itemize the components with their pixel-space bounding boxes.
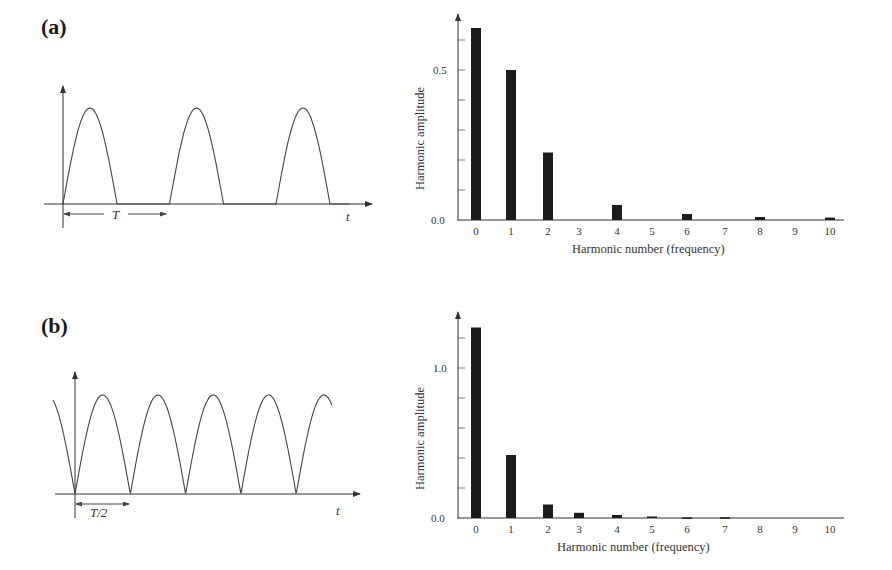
bar-4 <box>612 515 622 518</box>
bar-6 <box>682 214 692 220</box>
xtick-label: 9 <box>792 523 798 535</box>
waveform-b: T/2 t <box>53 372 360 520</box>
bar-6 <box>682 517 692 519</box>
bar-1 <box>506 70 516 220</box>
bar-0 <box>471 28 481 220</box>
chart-b-ytick-1: 1.0 <box>433 362 447 374</box>
chart-b-xtick-labels: 012345678910 <box>473 523 836 535</box>
bar-5 <box>647 517 657 519</box>
xtick-label: 1 <box>508 523 514 535</box>
chart-b-ytick-0: 0.0 <box>431 512 445 524</box>
bar-2 <box>543 153 553 221</box>
chart-a-xtick-labels: 012345678910 <box>473 225 836 237</box>
xtick-label: 3 <box>576 225 582 237</box>
bar-8 <box>755 217 765 220</box>
xtick-label: 4 <box>614 225 620 237</box>
bar-10 <box>825 218 835 220</box>
bar-3 <box>574 513 584 518</box>
chart-a-ytick-0: 0.0 <box>431 214 445 226</box>
xtick-label: 7 <box>722 523 728 535</box>
xtick-label: 5 <box>649 523 655 535</box>
waveform-a-curve <box>63 108 350 204</box>
bar-7 <box>720 517 730 519</box>
xtick-label: 7 <box>722 225 728 237</box>
xtick-label: 1 <box>508 225 514 237</box>
chart-a-xlabel: Harmonic number (frequency) <box>572 242 725 256</box>
chart-b-ylabel: Harmonic amplitude <box>413 386 427 490</box>
bar-1 <box>506 455 516 518</box>
xtick-label: 8 <box>757 523 763 535</box>
chart-b-yticks <box>458 338 465 488</box>
xtick-label: 2 <box>545 523 551 535</box>
xtick-label: 10 <box>825 225 837 237</box>
xtick-label: 0 <box>473 523 479 535</box>
xtick-label: 3 <box>576 523 582 535</box>
chart-a-ylabel: Harmonic amplitude <box>413 86 427 190</box>
figure-canvas: T t T/2 t 012345678910 0.0 0.5 Harmonic … <box>0 0 892 570</box>
time-label-b: t <box>336 503 340 518</box>
xtick-label: 0 <box>473 225 479 237</box>
bar-0 <box>471 328 481 519</box>
xtick-label: 10 <box>825 523 837 535</box>
xtick-label: 2 <box>545 225 551 237</box>
xtick-label: 9 <box>792 225 798 237</box>
time-label-a: t <box>346 209 350 224</box>
xtick-label: 4 <box>614 523 620 535</box>
chart-b-bars <box>471 328 730 519</box>
waveform-a: T t <box>44 86 372 228</box>
period-label-b: T/2 <box>90 505 108 520</box>
xtick-label: 8 <box>757 225 763 237</box>
bar-4 <box>612 205 622 220</box>
chart-a-bars <box>471 28 835 220</box>
waveform-b-curve <box>53 395 332 494</box>
xtick-label: 6 <box>684 225 690 237</box>
bar-2 <box>543 505 553 519</box>
chart-a-ytick-05: 0.5 <box>433 64 447 76</box>
chart-a-yticks <box>458 40 465 190</box>
xtick-label: 6 <box>684 523 690 535</box>
bar-chart-a: 012345678910 0.0 0.5 Harmonic number (fr… <box>413 14 844 256</box>
xtick-label: 5 <box>649 225 655 237</box>
chart-b-xlabel: Harmonic number (frequency) <box>557 540 710 554</box>
bar-chart-b: 012345678910 0.0 1.0 Harmonic number (fr… <box>413 312 844 554</box>
period-label-a: T <box>112 207 120 222</box>
